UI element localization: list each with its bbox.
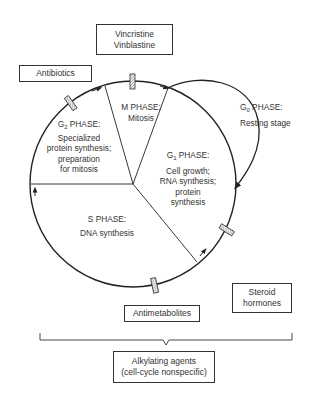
alkylating-bracket (40, 333, 292, 345)
g2-desc-2: protein synthesis; (38, 143, 120, 154)
m-phase-name: M PHASE: (112, 102, 170, 113)
g2-desc-3: preparation (38, 154, 120, 165)
s-phase-label: S PHASE: DNA synthesis (72, 214, 142, 238)
marker-antimetabolites (151, 278, 159, 294)
g1-desc-4: synthesis (153, 197, 223, 208)
g1-desc-1: Cell growth; (153, 166, 223, 177)
g0-phase-name: G0 PHASE: (240, 102, 306, 116)
g1-phase-label: G1 PHASE: Cell growth; RNA synthesis; pr… (153, 150, 223, 208)
alkylating-agents-box: Alkylating agents (cell-cycle nonspecifi… (113, 351, 215, 383)
g2-phase-name: G2 PHASE: (38, 119, 120, 133)
g1-desc-2: RNA synthesis; (153, 176, 223, 187)
antibiotics-box: Antibiotics (19, 65, 92, 82)
s-phase-name: S PHASE: (72, 214, 142, 225)
g1-phase-name: G1 PHASE: (153, 150, 223, 164)
g2-desc-1: Specialized (38, 133, 120, 144)
antibiotics-label: Antibiotics (20, 68, 91, 79)
steroid-line-1: Steroid (233, 287, 291, 298)
alkylating-line-1: Alkylating agents (114, 356, 214, 367)
g2-phase-label: G2 PHASE: Specialized protein synthesis;… (38, 119, 120, 175)
vinca-line-1: Vincristine (97, 29, 172, 40)
alkylating-line-2: (cell-cycle nonspecific) (114, 367, 214, 378)
antimetabolites-label: Antimetabolites (125, 308, 199, 319)
m-phase-label: M PHASE: Mitosis (112, 102, 170, 123)
g0-phase-desc: Resting stage (240, 118, 306, 129)
antimetabolites-box: Antimetabolites (124, 305, 200, 322)
arrow-g1-to-s (200, 250, 205, 256)
steroid-line-2: hormones (233, 298, 291, 309)
vinca-alkaloids-box: Vincristine Vinblastine (96, 24, 173, 55)
s-phase-desc: DNA synthesis (72, 228, 142, 239)
steroid-hormones-box: Steroid hormones (232, 283, 292, 313)
marker-antibiotics (64, 96, 77, 111)
g2-desc-4: for mitosis (38, 164, 120, 175)
marker-vinca (130, 74, 135, 89)
g1-desc-3: protein (153, 187, 223, 198)
vinca-line-2: Vinblastine (97, 40, 172, 51)
m-phase-desc: Mitosis (112, 113, 170, 124)
g0-phase-label: G0 PHASE: Resting stage (240, 102, 306, 128)
